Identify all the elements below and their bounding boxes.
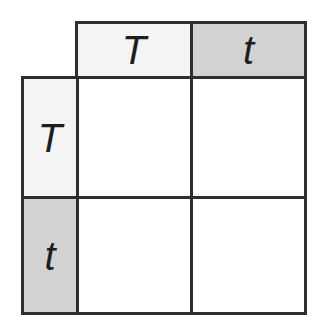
row-allele-label: T <box>38 118 62 158</box>
column-header-dominant: T <box>75 21 193 79</box>
row-header-dominant: T <box>21 76 79 199</box>
column-allele-label: T <box>122 30 146 70</box>
column-allele-label: t <box>243 30 254 70</box>
row-allele-label: t <box>44 236 55 276</box>
row-header-recessive: t <box>21 196 79 315</box>
column-header-recessive: t <box>190 21 307 79</box>
offspring-cell-TT <box>76 76 193 199</box>
offspring-cell-Tt-bottom <box>76 196 193 315</box>
offspring-cell-Tt-top <box>190 76 307 199</box>
offspring-cell-tt <box>190 196 307 315</box>
